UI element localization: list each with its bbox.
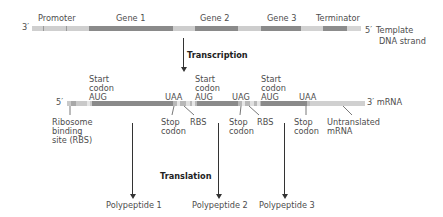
stop-codon-1-below-line2: codon: [161, 127, 186, 137]
rbs2-label: RBS: [190, 118, 206, 128]
stop-codon-2-below-line2: codon: [229, 127, 254, 137]
translation-label: Translation: [160, 172, 211, 182]
rbs3-label: RBS: [257, 118, 273, 128]
translation-arrow-1-icon: [132, 123, 133, 195]
rbs-label-line3: site (RBS): [52, 136, 92, 146]
pointer-lines: [0, 0, 443, 217]
untranslated-label-line2: mRNA: [327, 127, 352, 137]
stop-codon-3-below-line2: codon: [294, 127, 319, 137]
polypeptide-2-label: Polypeptide 2: [192, 201, 248, 211]
translation-arrow-2-icon: [218, 123, 219, 195]
polypeptide-1-label: Polypeptide 1: [106, 201, 162, 211]
polypeptide-3-label: Polypeptide 3: [259, 201, 315, 211]
translation-arrow-3-icon: [284, 123, 285, 195]
